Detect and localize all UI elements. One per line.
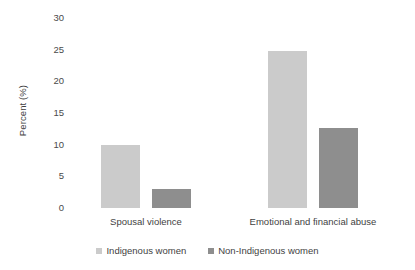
y-tick-label-30: 30 xyxy=(36,13,64,23)
bar-1-0[interactable] xyxy=(268,51,307,208)
bar-0-0[interactable] xyxy=(101,145,140,208)
legend-swatch-icon-1 xyxy=(208,248,214,254)
y-tick-label-25: 25 xyxy=(36,45,64,55)
y-tick-label-10: 10 xyxy=(36,140,64,150)
legend-label-0: Indigenous women xyxy=(106,245,186,256)
legend-swatch-icon-0 xyxy=(96,248,102,254)
legend-label-1: Non-Indigenous women xyxy=(218,245,318,256)
y-tick-label-5: 5 xyxy=(36,171,64,181)
bar-1-1[interactable] xyxy=(319,128,358,208)
chart-legend: Indigenous womenNon-Indigenous women xyxy=(0,245,415,256)
y-tick-label-0: 0 xyxy=(36,203,64,213)
bar-chart: Percent (%) 051015202530 Spousal violenc… xyxy=(0,0,415,270)
y-axis-title: Percent (%) xyxy=(17,66,28,156)
y-tick-label-15: 15 xyxy=(36,108,64,118)
legend-item-0[interactable]: Indigenous women xyxy=(96,245,186,256)
bar-0-1[interactable] xyxy=(152,189,191,208)
x-axis-label-1: Emotional and financial abuse xyxy=(213,216,413,227)
plot-area: 051015202530 xyxy=(68,18,408,208)
legend-item-1[interactable]: Non-Indigenous women xyxy=(208,245,318,256)
y-tick-label-20: 20 xyxy=(36,76,64,86)
